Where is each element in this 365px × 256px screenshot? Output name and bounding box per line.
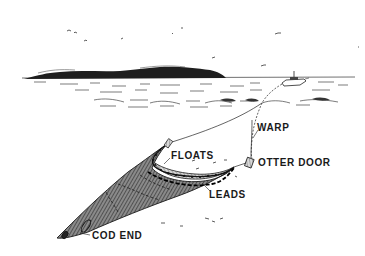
island	[24, 67, 226, 79]
floats-label: FLOATS	[171, 151, 214, 161]
otter-door-lower	[244, 157, 254, 168]
warp-lines	[172, 84, 282, 158]
boat	[282, 71, 309, 86]
leads-label: LEADS	[209, 190, 246, 200]
birds	[67, 27, 359, 66]
trawl-diagram	[0, 0, 365, 256]
cod-end-label: COD END	[92, 231, 142, 241]
bridle-lower	[234, 163, 246, 167]
warp-label: WARP	[257, 123, 289, 133]
otter-door-upper	[164, 139, 173, 148]
water-surface	[34, 82, 348, 107]
otter-door-label: OTTER DOOR	[258, 158, 331, 168]
